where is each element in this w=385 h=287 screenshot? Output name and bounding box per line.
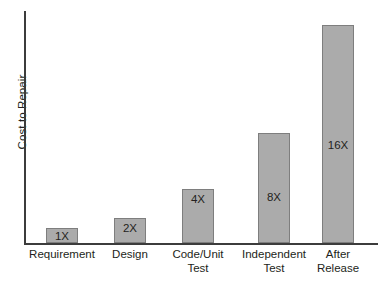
x-axis-label-after-release: After Release (298, 248, 378, 275)
bar-code-unit-test[interactable]: 4X (182, 189, 214, 243)
bar-independent-test[interactable]: 8X (258, 133, 290, 243)
x-axis-line (24, 243, 378, 245)
bar-value-label: 2X (115, 222, 145, 234)
bar-design[interactable]: 2X (114, 218, 146, 243)
plot-area: 1X 2X 4X 8X 16X (0, 0, 385, 243)
bar-value-label: 8X (259, 191, 289, 203)
bar-value-label: 16X (323, 139, 353, 151)
bar-value-label: 4X (183, 193, 213, 205)
bar-requirement[interactable]: 1X (46, 228, 78, 243)
bar-value-label: 1X (47, 230, 77, 242)
bar-after-release[interactable]: 16X (322, 25, 354, 243)
cost-to-repair-bar-chart: Cost to Repair 1X 2X 4X 8X 16X Requireme… (0, 0, 385, 287)
